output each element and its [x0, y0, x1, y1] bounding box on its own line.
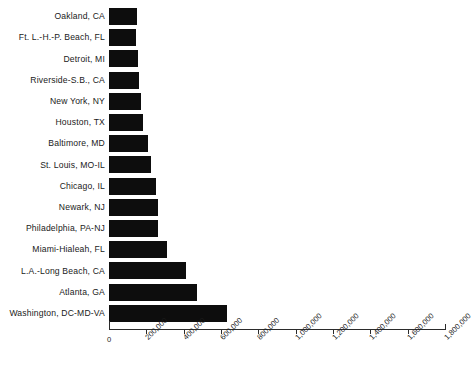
bar-row	[109, 218, 445, 239]
bar[interactable]	[109, 199, 158, 216]
category-label: Baltimore, MD	[48, 133, 105, 154]
category-label-row: Oakland, CA	[0, 6, 105, 27]
category-label: Washington, DC-MD-VA	[9, 303, 105, 324]
bar-row	[109, 91, 445, 112]
category-label-row: Baltimore, MD	[0, 133, 105, 154]
category-label: Philadelphia, PA-NJ	[26, 218, 105, 239]
bar[interactable]	[109, 135, 148, 152]
bar-row	[109, 176, 445, 197]
plot-area	[109, 6, 445, 325]
bar[interactable]	[109, 284, 197, 301]
category-label-row: Newark, NJ	[0, 197, 105, 218]
bar-row	[109, 197, 445, 218]
category-label: St. Louis, MO-IL	[40, 154, 105, 175]
bar-row	[109, 48, 445, 69]
category-label-row: St. Louis, MO-IL	[0, 154, 105, 175]
bar[interactable]	[109, 262, 186, 279]
category-label-row: Ft. L.-H.-P. Beach, FL	[0, 27, 105, 48]
bar[interactable]	[109, 114, 143, 131]
category-label-row: Detroit, MI	[0, 48, 105, 69]
category-label-column: Oakland, CAFt. L.-H.-P. Beach, FLDetroit…	[0, 6, 105, 325]
bar[interactable]	[109, 156, 151, 173]
bar[interactable]	[109, 50, 138, 67]
x-axis-tick-label: 1,800,000	[443, 312, 472, 341]
category-label: Oakland, CA	[54, 6, 105, 27]
category-label: Chicago, IL	[60, 176, 105, 197]
bar[interactable]	[109, 305, 227, 322]
x-axis-tick	[445, 324, 446, 330]
category-label: Houston, TX	[55, 112, 105, 133]
x-axis-tick-label: 0	[107, 336, 111, 344]
bar-row	[109, 112, 445, 133]
category-label-row: Washington, DC-MD-VA	[0, 303, 105, 324]
category-label: Miami-Hialeah, FL	[32, 239, 105, 260]
category-label: Newark, NJ	[59, 197, 105, 218]
bar-row	[109, 70, 445, 91]
bar[interactable]	[109, 220, 158, 237]
bar-row	[109, 260, 445, 281]
bar[interactable]	[109, 241, 167, 258]
category-label: Ft. L.-H.-P. Beach, FL	[19, 27, 105, 48]
bar[interactable]	[109, 29, 136, 46]
category-label: L.A.-Long Beach, CA	[21, 260, 105, 281]
bar[interactable]	[109, 178, 156, 195]
bar-row	[109, 27, 445, 48]
x-axis-tick	[109, 324, 110, 330]
bar-row	[109, 239, 445, 260]
category-label: New York, NY	[50, 91, 105, 112]
category-label: Detroit, MI	[63, 48, 105, 69]
bar[interactable]	[109, 8, 137, 25]
category-label: Atlanta, GA	[59, 281, 105, 302]
bar-row	[109, 281, 445, 302]
bar[interactable]	[109, 72, 139, 89]
bar[interactable]	[109, 93, 141, 110]
category-label-row: Atlanta, GA	[0, 281, 105, 302]
category-label: Riverside-S.B., CA	[30, 70, 105, 91]
category-label-row: New York, NY	[0, 91, 105, 112]
category-label-row: L.A.-Long Beach, CA	[0, 260, 105, 281]
bar-row	[109, 6, 445, 27]
category-label-row: Chicago, IL	[0, 176, 105, 197]
category-label-row: Riverside-S.B., CA	[0, 70, 105, 91]
category-label-row: Philadelphia, PA-NJ	[0, 218, 105, 239]
bar-row	[109, 133, 445, 154]
category-label-row: Miami-Hialeah, FL	[0, 239, 105, 260]
category-label-row: Houston, TX	[0, 112, 105, 133]
bar-row	[109, 154, 445, 175]
